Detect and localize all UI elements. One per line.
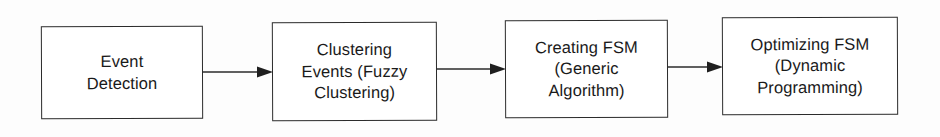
flowchart-diagram: Event Detection Clustering Events (Fuzzy… bbox=[0, 0, 940, 137]
flow-node-creating-fsm[interactable]: Creating FSM (Generic Algorithm) bbox=[505, 20, 668, 119]
flow-node-optimizing-fsm[interactable]: Optimizing FSM (Dynamic Programming) bbox=[722, 17, 898, 116]
flow-node-label: Event Detection bbox=[83, 51, 162, 94]
flow-arrow-3 bbox=[667, 60, 724, 74]
flow-node-label: Creating FSM (Generic Algorithm) bbox=[531, 37, 642, 102]
flow-node-event-detection[interactable]: Event Detection bbox=[41, 26, 203, 120]
flow-node-label: Clustering Events (Fuzzy Clustering) bbox=[297, 39, 411, 104]
flow-arrow-1 bbox=[202, 65, 274, 79]
flow-node-clustering-events[interactable]: Clustering Events (Fuzzy Clustering) bbox=[272, 22, 437, 122]
flow-node-label: Optimizing FSM (Dynamic Programming) bbox=[746, 34, 873, 99]
flow-arrow-2 bbox=[436, 62, 507, 76]
